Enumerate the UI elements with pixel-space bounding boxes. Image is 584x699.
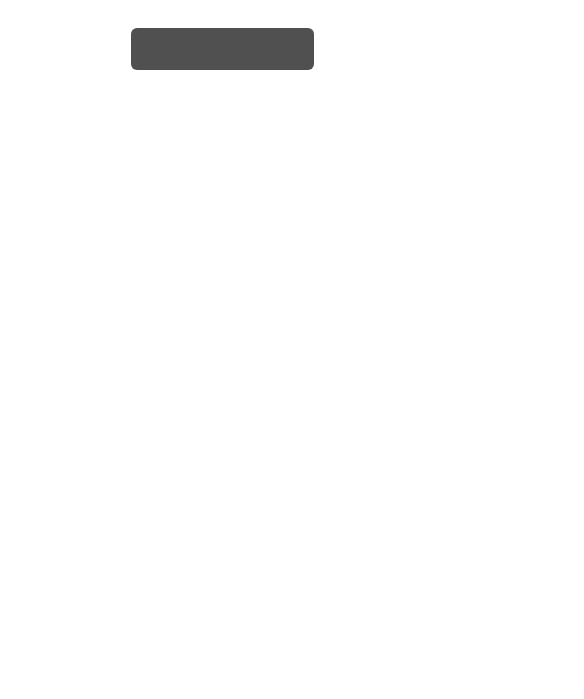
title-node <box>131 28 314 70</box>
